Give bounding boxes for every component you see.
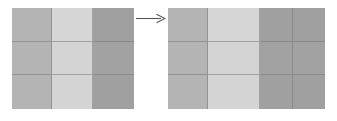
cell-r3c2 (208, 75, 260, 109)
cell-r2c3 (260, 42, 293, 76)
right-arrow-icon (136, 10, 166, 26)
cell-r1c3 (260, 8, 293, 42)
cell-r3c3 (260, 75, 293, 109)
grid-row (168, 75, 325, 109)
cell-r3c1 (12, 75, 52, 109)
cell-r2c1 (12, 42, 52, 76)
cell-r1c2 (208, 8, 260, 42)
cell-r1c4 (293, 8, 325, 42)
cell-r3c3 (93, 75, 134, 109)
cell-r2c1 (168, 42, 208, 76)
cell-r3c2 (52, 75, 93, 109)
cell-r2c4 (293, 42, 325, 76)
cell-r1c3 (93, 8, 134, 42)
grid-row (168, 8, 325, 42)
cell-r2c2 (52, 42, 93, 76)
right-arrow-glyph (136, 10, 166, 26)
cell-r1c2 (52, 8, 93, 42)
cell-r1c1 (12, 8, 52, 42)
grid-row (168, 42, 325, 76)
cell-r3c1 (168, 75, 208, 109)
cell-r2c2 (208, 42, 260, 76)
cell-r1c1 (168, 8, 208, 42)
source-grid (12, 8, 134, 109)
cell-r3c4 (293, 75, 325, 109)
figure-root (0, 0, 337, 121)
cell-r2c3 (93, 42, 134, 76)
grid-row (12, 8, 134, 42)
grid-row (12, 42, 134, 76)
grid-row (12, 75, 134, 109)
result-grid (168, 8, 325, 109)
